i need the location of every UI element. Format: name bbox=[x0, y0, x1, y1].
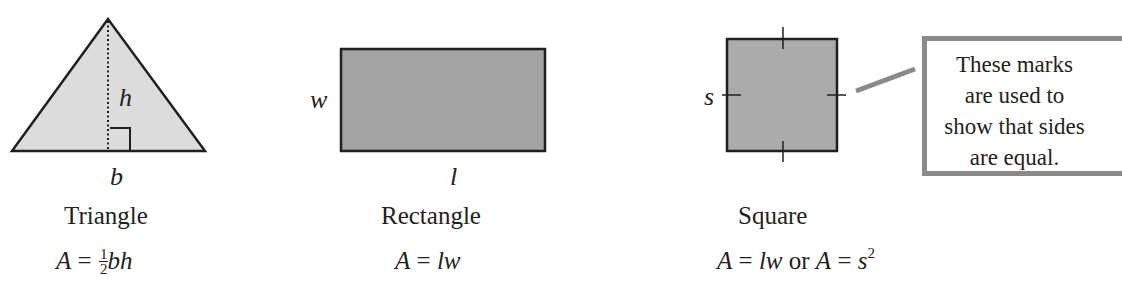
formula-lhs: A bbox=[395, 247, 410, 274]
rectangle-width-label: w bbox=[310, 87, 327, 113]
fraction-numerator: 1 bbox=[99, 247, 109, 262]
formula-rhs: lw bbox=[437, 247, 461, 274]
formula-equals: = bbox=[78, 247, 92, 274]
rectangle-length-label: l bbox=[450, 164, 457, 190]
square-formula: A = lw or A = s2 bbox=[717, 248, 875, 273]
callout-text: These marks are used to show that sides … bbox=[927, 49, 1102, 173]
rectangle-formula: A = lw bbox=[395, 248, 461, 273]
square-shape bbox=[727, 39, 837, 151]
formula-rhs-2: s bbox=[858, 247, 868, 274]
rectangle-name: Rectangle bbox=[381, 203, 481, 228]
formula-rhs: lw bbox=[759, 247, 783, 274]
callout-line: are equal. bbox=[927, 142, 1102, 173]
formula-lhs-2: A bbox=[816, 247, 831, 274]
callout-line: show that sides bbox=[927, 111, 1102, 142]
formula-or: or bbox=[789, 247, 810, 274]
formula-exponent: 2 bbox=[867, 245, 875, 261]
square-side-label: s bbox=[704, 84, 714, 110]
square-name: Square bbox=[738, 203, 807, 228]
formula-equals: = bbox=[417, 247, 431, 274]
callout-line: These marks bbox=[927, 49, 1102, 80]
fraction-denominator: 2 bbox=[99, 262, 109, 276]
formula-equals: = bbox=[739, 247, 753, 274]
triangle-height-label: h bbox=[119, 85, 132, 111]
callout-connector bbox=[856, 69, 915, 91]
formula-rhs: bh bbox=[107, 247, 132, 274]
formula-equals-2: = bbox=[837, 247, 851, 274]
callout-line: are used to bbox=[927, 80, 1102, 111]
triangle-formula: A = 12bh bbox=[56, 248, 132, 278]
rectangle-shape bbox=[341, 49, 545, 151]
triangle-name: Triangle bbox=[64, 203, 148, 228]
formula-lhs: A bbox=[717, 247, 732, 274]
formula-lhs: A bbox=[56, 247, 71, 274]
callout-box: These marks are used to show that sides … bbox=[922, 36, 1122, 176]
triangle-base-label: b bbox=[110, 164, 123, 190]
one-half-fraction: 12 bbox=[99, 247, 109, 277]
